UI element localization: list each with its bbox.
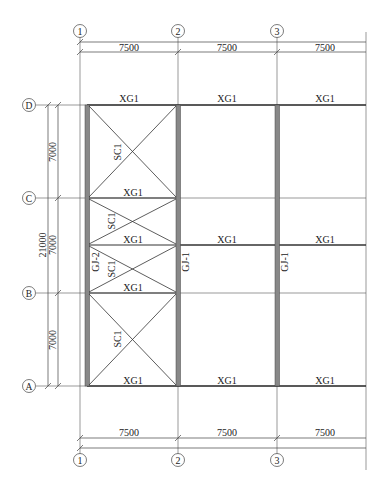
top-dim-2: 7500 [217,42,237,53]
beam-label-D-2: XG1 [217,93,236,104]
beam-label-A-3: XG1 [315,375,334,386]
beam-label-mid-2: XG1 [217,234,236,245]
frame-label-gj1-col2: GJ-1 [180,252,191,271]
axis-label-C: C [26,194,32,204]
beam-label-A-1: XG1 [123,375,142,386]
top-dim-1: 7500 [119,42,139,53]
bay-beams [87,198,178,293]
beam-label-B: XG1 [123,282,142,293]
beam-label-A-2: XG1 [217,375,236,386]
left-dim-total: 21000 [37,233,48,258]
axis-label-1-bottom: 1 [78,455,83,466]
axis-label-3-top: 3 [275,26,280,37]
beam-label-D-3: XG1 [315,93,334,104]
bracing-label-3: SC1 [106,260,117,277]
bracing-label-2: SC1 [106,212,117,229]
axis-label-2-top: 2 [176,26,181,37]
frame-label-gj2: GJ-2 [90,252,101,271]
beam-label-mid-1: XG1 [123,234,142,245]
left-dim-seg-2: 7000 [47,235,58,255]
beam-label-D-1: XG1 [119,93,138,104]
bottom-dim-3: 7500 [315,427,335,438]
bracing-label-1: SC1 [112,143,123,160]
axis-label-3-bottom: 3 [275,455,280,466]
beam-label-mid-3: XG1 [315,234,334,245]
left-dim-seg-1: 7000 [47,142,58,162]
bottom-dim-2: 7500 [217,427,237,438]
axis-label-A: A [26,382,33,392]
axis-label-2-bottom: 2 [176,455,181,466]
axis-label-1-top: 1 [78,26,83,37]
bracing-label-4: SC1 [112,330,123,347]
beam-label-C: XG1 [123,187,142,198]
axis-label-B: B [26,289,32,299]
structural-plan-drawing: 7500 7500 7500 7500 7500 7500 7000 7000 … [0,0,385,500]
frame-label-gj1-col3: GJ-1 [279,252,290,271]
axis-bubbles-left [23,99,36,393]
top-dim-3: 7500 [315,42,335,53]
left-dim-seg-3: 7000 [47,330,58,350]
axis-label-D: D [26,101,33,111]
bottom-dim-1: 7500 [119,427,139,438]
